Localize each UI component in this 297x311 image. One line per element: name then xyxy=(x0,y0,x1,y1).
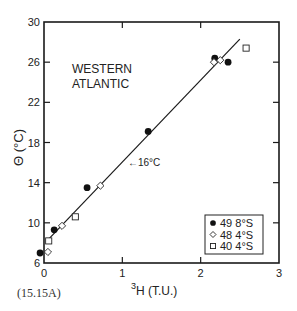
data-point xyxy=(72,214,78,220)
figure-label: (15.15A) xyxy=(17,286,61,301)
data-point xyxy=(37,250,44,257)
data-point xyxy=(145,128,152,135)
y-axis-label-text: Θ (°C) xyxy=(11,129,26,166)
data-point xyxy=(243,45,249,51)
y-tick-label: 18 xyxy=(28,137,40,149)
data-point xyxy=(44,248,51,255)
line-annotation: ←16°C xyxy=(128,157,160,168)
region-label-line1: WESTERN xyxy=(72,62,132,77)
region-label: WESTERN ATLANTIC xyxy=(72,62,132,92)
legend-entry: 48 4°S xyxy=(220,229,253,241)
arrow-left-icon: ← xyxy=(128,157,138,168)
legend-entry: 49 8°S xyxy=(220,217,253,229)
x-tick-label: 3 xyxy=(276,267,282,279)
x-tick-label: 0 xyxy=(41,267,47,279)
x-tick-label: 1 xyxy=(119,267,125,279)
y-tick-label: 30 xyxy=(28,16,40,28)
region-label-line2: ATLANTIC xyxy=(72,77,132,92)
y-tick-label: 6 xyxy=(34,257,40,269)
x-tick-label: 2 xyxy=(198,267,204,279)
legend-entry: 40 4°S xyxy=(220,240,253,252)
y-tick-label: 10 xyxy=(28,217,40,229)
y-tick-label: 26 xyxy=(28,56,40,68)
legend-marker xyxy=(210,243,215,248)
x-axis-label-main: H (T.U.) xyxy=(136,284,177,298)
x-axis-label: 3H (T.U.) xyxy=(131,281,177,298)
data-point xyxy=(51,226,58,233)
line-annotation-text: 16°C xyxy=(138,157,160,168)
y-axis-label: Θ (°C) xyxy=(11,126,26,170)
legend-marker xyxy=(210,220,216,226)
data-point xyxy=(46,238,52,244)
y-tick-label: 22 xyxy=(28,96,40,108)
scatter-plot: 01236101418222630 49 8°S48 4°S40 4°S xyxy=(0,0,297,311)
data-point xyxy=(84,184,91,191)
legend: 49 8°S48 4°S40 4°S xyxy=(205,215,263,254)
y-tick-label: 14 xyxy=(28,177,40,189)
data-point xyxy=(225,59,232,66)
